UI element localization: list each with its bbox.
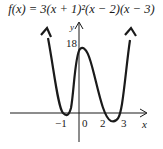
left-arm-arrow-icon	[41, 28, 51, 37]
y-axis-label: y	[70, 22, 74, 33]
x-tick-neg1: −1	[55, 118, 67, 129]
right-arm-arrow-icon	[125, 28, 136, 36]
function-curve	[48, 38, 130, 121]
x-tick-2: 2	[100, 118, 106, 129]
x-tick-0: 0	[82, 118, 88, 129]
x-tick-3: 3	[121, 118, 127, 129]
y-tick-18: 18	[66, 38, 77, 49]
x-axis-label: x	[142, 119, 147, 130]
